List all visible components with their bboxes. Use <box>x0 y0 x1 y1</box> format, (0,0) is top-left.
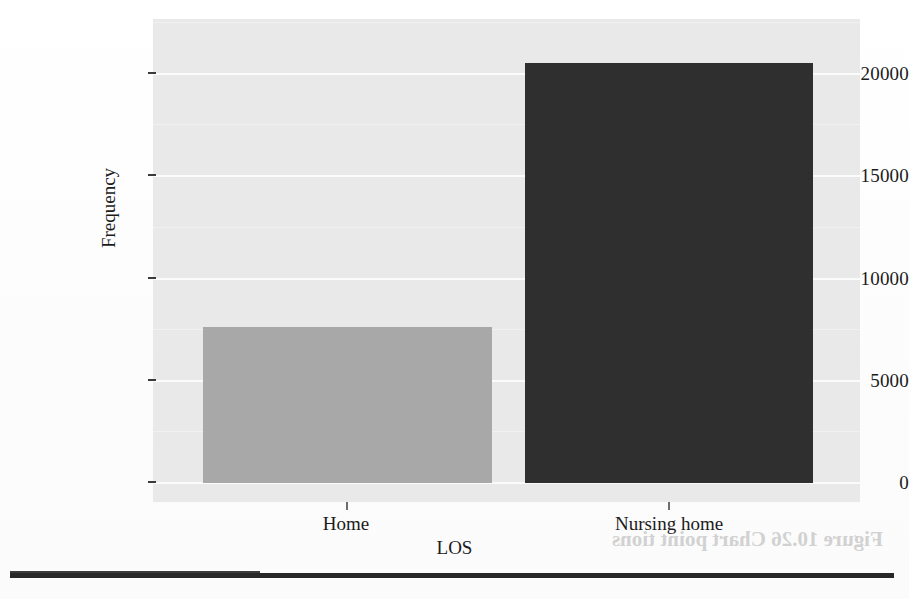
y-tick-mark-20000 <box>148 72 156 74</box>
y-axis-title: Frequency <box>99 143 119 273</box>
y-tick-label-10000: 10000 <box>764 269 909 288</box>
bar-chart-figure: Figure 10.26 Chart point tions 5000 1500… <box>0 0 909 599</box>
x-tick-mark-home <box>346 502 348 510</box>
x-tick-label-home: Home <box>246 513 446 534</box>
x-axis-title: LOS <box>0 537 909 558</box>
y-tick-mark-0 <box>148 481 156 483</box>
x-tick-label-nursing-home: Nursing home <box>569 513 769 534</box>
y-tick-label-20000: 20000 <box>764 64 909 83</box>
x-tick-mark-nursing-home <box>668 502 670 510</box>
y-tick-label-5000: 5000 <box>764 371 909 390</box>
y-tick-mark-10000 <box>148 277 156 279</box>
y-tick-mark-5000 <box>148 379 156 381</box>
page-rule <box>10 573 894 578</box>
y-tick-mark-15000 <box>148 174 156 176</box>
y-axis: 20000 15000 10000 5000 0 <box>0 0 909 599</box>
y-tick-label-0: 0 <box>764 473 909 492</box>
y-tick-label-15000: 15000 <box>764 166 909 185</box>
